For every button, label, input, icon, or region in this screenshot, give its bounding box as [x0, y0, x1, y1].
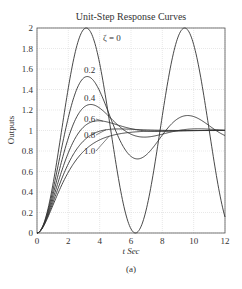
y-tick-label: 2: [29, 23, 34, 33]
curve-label: 1.0: [84, 146, 96, 156]
curve-label: 0.8: [84, 130, 96, 140]
step-response-chart: Unit-Step Response Curves 00.20.40.60.81…: [0, 0, 242, 289]
chart-title: Unit-Step Response Curves: [76, 11, 187, 22]
curve-label: 0.6: [84, 114, 96, 124]
y-tick-label: 0.4: [22, 187, 34, 197]
y-tick-label: 0.2: [22, 208, 33, 218]
x-tick-label: 10: [189, 236, 199, 246]
y-tick-label: 0.6: [22, 167, 34, 177]
y-tick-label: 1.6: [22, 64, 34, 74]
y-axis-ticks: 00.20.40.60.811.21.41.61.82: [22, 23, 34, 238]
y-tick-label: 1: [29, 126, 34, 136]
x-axis-ticks: 024681012: [35, 236, 230, 246]
label-leaders: [96, 119, 109, 151]
y-tick-label: 1.8: [22, 44, 34, 54]
x-tick-label: 0: [35, 236, 40, 246]
x-tick-label: 4: [97, 236, 102, 246]
y-tick-label: 0.8: [22, 146, 34, 156]
x-tick-label: 6: [129, 236, 134, 246]
figure-caption: (a): [126, 264, 136, 274]
response-curve: [37, 131, 225, 233]
curve-label: 0.2: [84, 65, 95, 75]
y-axis-label: Outputs: [6, 115, 16, 144]
curve-label: ζ = 0: [103, 33, 121, 43]
x-tick-label: 8: [160, 236, 165, 246]
x-tick-label: 12: [221, 236, 230, 246]
y-tick-label: 1.4: [22, 85, 34, 95]
y-tick-label: 0: [29, 228, 34, 238]
x-axis-label: t Sec: [122, 246, 139, 256]
curve-label: 0.4: [84, 93, 96, 103]
curve-labels: ζ = 00.20.40.60.81.0: [84, 33, 121, 156]
x-tick-label: 2: [66, 236, 71, 246]
y-tick-label: 1.2: [22, 105, 33, 115]
